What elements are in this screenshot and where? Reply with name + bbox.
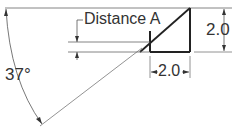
arrow-icon xyxy=(36,117,42,124)
arrow-icon xyxy=(75,36,79,42)
arrow-icon xyxy=(4,9,8,16)
angle-extension-line xyxy=(40,48,142,126)
width-dimension-label: 2.0 xyxy=(158,62,180,80)
angle-label: 37° xyxy=(5,65,31,85)
distance-a-label: Distance A xyxy=(84,10,160,28)
height-dimension-label: 2.0 xyxy=(206,20,230,40)
arrow-icon xyxy=(75,52,79,58)
